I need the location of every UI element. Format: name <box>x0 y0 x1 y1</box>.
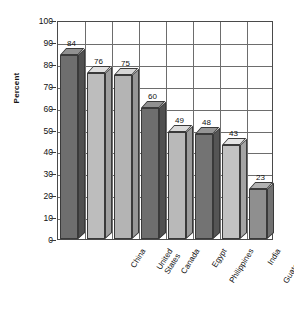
gridline-vertical <box>166 22 167 239</box>
bar-front-face <box>87 73 105 239</box>
bar <box>60 55 78 239</box>
y-axis-tick-mark <box>50 109 56 110</box>
y-axis-tick-mark <box>50 65 56 66</box>
gridline-vertical <box>139 22 140 239</box>
bar-side-face <box>267 182 274 239</box>
y-axis-tick-mark <box>50 152 56 153</box>
bar-front-face <box>168 132 186 239</box>
chart-canvas: Percent 1009080706050403020100 ChinaUnit… <box>0 0 294 334</box>
bar-front-face <box>60 55 78 239</box>
bar-value-label: 43 <box>221 129 246 138</box>
bar-side-face <box>78 49 85 239</box>
y-axis-tick-mark <box>50 43 56 44</box>
bar <box>87 73 105 239</box>
bar-front-face <box>222 145 240 239</box>
gridline-vertical <box>193 22 194 239</box>
bar-value-label: 75 <box>113 59 138 68</box>
bar-value-label: 60 <box>140 92 165 101</box>
bar-value-label: 76 <box>86 57 111 66</box>
y-axis-tick-mark <box>50 87 56 88</box>
bar-front-face <box>249 189 267 239</box>
gridline-horizontal <box>58 66 272 67</box>
y-axis-tick-mark <box>50 218 56 219</box>
bar <box>168 132 186 239</box>
gridline-horizontal <box>58 44 272 45</box>
bar-side-face <box>240 139 247 239</box>
chart-title-cropped <box>0 0 294 9</box>
bar-side-face <box>186 125 193 239</box>
bar-side-face <box>213 128 220 239</box>
bar-value-label: 48 <box>194 118 219 127</box>
bar-side-face <box>105 66 112 239</box>
y-axis-tick-mark <box>50 174 56 175</box>
bar-side-face <box>159 101 166 239</box>
bar-value-label: 84 <box>59 39 84 48</box>
bar-front-face <box>114 75 132 239</box>
bar-value-label: 49 <box>167 116 192 125</box>
y-axis-title: Percent <box>11 58 23 118</box>
bar <box>249 189 267 239</box>
bar <box>195 134 213 239</box>
y-axis-tick-mark <box>50 131 56 132</box>
bar-value-label: 23 <box>248 173 273 182</box>
gridline-vertical <box>247 22 248 239</box>
gridline-vertical <box>112 22 113 239</box>
bar <box>141 108 159 239</box>
bar <box>222 145 240 239</box>
bar-front-face <box>195 134 213 239</box>
gridline-vertical <box>85 22 86 239</box>
y-axis-tick-mark <box>50 240 56 241</box>
y-axis-tick-mark <box>50 21 56 22</box>
bar-side-face <box>132 68 139 239</box>
bar <box>114 75 132 239</box>
y-axis-tick-mark <box>50 196 56 197</box>
bar-front-face <box>141 108 159 239</box>
